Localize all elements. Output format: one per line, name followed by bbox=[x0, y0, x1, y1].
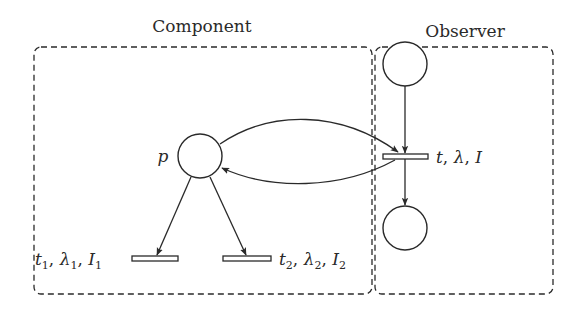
petri-net-diagram: Component Observer p t1, λ1, I1 t2, λ2, … bbox=[0, 0, 582, 313]
transition-t1 bbox=[132, 256, 178, 261]
component-title: Component bbox=[152, 16, 251, 36]
transition-t-label: t, λ, I bbox=[436, 147, 482, 167]
place-p bbox=[178, 134, 222, 178]
arc-p-to-t2 bbox=[210, 177, 246, 255]
arc-p-to-t bbox=[220, 119, 398, 152]
arc-p-to-t1 bbox=[157, 177, 191, 255]
transition-t1-label: t1, λ1, I1 bbox=[35, 249, 102, 272]
place-p-label: p bbox=[158, 146, 169, 166]
arc-t-to-p bbox=[222, 160, 395, 184]
observer-title: Observer bbox=[425, 21, 505, 41]
transition-t bbox=[383, 154, 428, 159]
transition-t2 bbox=[223, 256, 271, 261]
place-observer-output bbox=[383, 206, 427, 250]
transition-t2-label: t2, λ2, I2 bbox=[279, 249, 346, 272]
place-observer-input bbox=[383, 42, 427, 86]
